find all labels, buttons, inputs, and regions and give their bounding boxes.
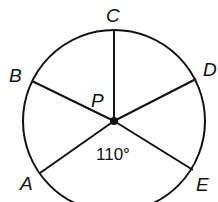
label-c: C	[106, 5, 120, 26]
label-e: E	[196, 174, 209, 195]
radius-pd	[114, 79, 196, 121]
circle-diagram: C B D A E P 110°	[0, 0, 218, 202]
label-b: B	[9, 65, 22, 86]
label-d: D	[203, 59, 217, 80]
center-point	[110, 117, 118, 125]
angle-label: 110°	[96, 145, 130, 164]
label-p: P	[91, 90, 104, 111]
label-a: A	[19, 173, 33, 194]
